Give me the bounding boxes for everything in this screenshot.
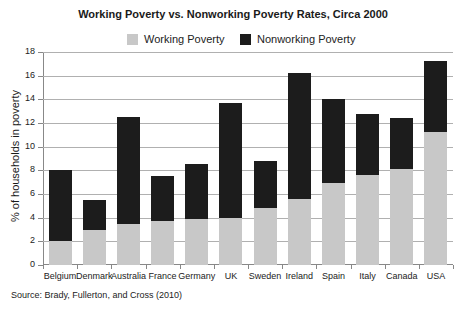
y-tick-label: 14 [15,93,35,103]
y-tick [38,241,43,242]
bar-usa [424,61,447,265]
x-tick [214,265,215,269]
y-tick [38,123,43,124]
y-tick-label: 12 [15,117,35,127]
y-tick-label: 16 [15,70,35,80]
bar-segment-nonworking [117,117,140,224]
bar-segment-working [424,132,447,265]
bar-segment-working [356,175,379,265]
bar-canada [390,118,413,265]
bar-segment-working [49,241,72,265]
x-tick [282,265,283,269]
legend-label-nonworking: Nonworking Poverty [257,33,355,45]
x-tick-label: USA [416,271,456,281]
bar-segment-nonworking [219,103,242,218]
y-tick-label: 4 [15,212,35,222]
bar-segment-working [390,169,413,265]
x-tick [248,265,249,269]
bar-segment-nonworking [288,73,311,198]
gridline [43,76,453,77]
y-tick [38,147,43,148]
bar-denmark [83,200,106,265]
legend-swatch-nonworking [240,34,251,45]
y-tick-label: 18 [15,46,35,56]
x-tick [453,265,454,269]
x-tick [419,265,420,269]
y-tick [38,194,43,195]
y-tick [38,99,43,100]
bar-sweden [254,161,277,265]
bar-segment-working [254,208,277,265]
bar-segment-working [151,221,174,265]
bar-segment-nonworking [322,99,345,183]
bar-segment-working [185,219,208,265]
bar-segment-working [288,199,311,265]
y-axis-label: % of households in poverty [9,86,21,226]
bar-segment-nonworking [390,118,413,169]
bar-segment-nonworking [83,200,106,230]
plot-area: 024681012141618 [43,52,453,265]
bar-segment-working [83,230,106,266]
legend-item-nonworking: Nonworking Poverty [240,32,355,46]
bar-ireland [288,73,311,265]
x-tick [146,265,147,269]
y-tick [38,52,43,53]
bar-france [151,176,174,265]
bar-segment-nonworking [151,176,174,221]
y-tick-label: 0 [15,259,35,269]
bar-segment-nonworking [424,61,447,132]
legend-swatch-working [127,34,138,45]
chart-title: Working Poverty vs. Nonworking Poverty R… [0,8,466,20]
x-tick [180,265,181,269]
legend: Working Poverty Nonworking Poverty [0,32,466,46]
bar-segment-nonworking [185,164,208,218]
bar-segment-working [219,218,242,265]
bar-australia [117,117,140,265]
y-tick-label: 6 [15,188,35,198]
y-tick [38,76,43,77]
y-tick-label: 2 [15,235,35,245]
x-tick [77,265,78,269]
bar-spain [322,99,345,265]
x-tick [385,265,386,269]
bar-segment-working [322,183,345,265]
gridline [43,52,453,53]
y-tick [38,170,43,171]
x-tick [43,265,44,269]
x-tick [111,265,112,269]
y-axis [43,52,44,265]
x-tick [316,265,317,269]
gridline [43,99,453,100]
y-tick-label: 10 [15,141,35,151]
bar-segment-working [117,224,140,265]
source-note: Source: Brady, Fullerton, and Cross (201… [11,290,182,300]
bar-uk [219,103,242,265]
y-tick [38,218,43,219]
legend-label-working: Working Poverty [144,33,225,45]
bar-segment-nonworking [49,170,72,241]
bar-belgium [49,170,72,265]
bar-italy [356,114,379,265]
x-tick [351,265,352,269]
legend-item-working: Working Poverty [127,32,225,46]
bar-germany [185,164,208,265]
y-tick-label: 8 [15,164,35,174]
bar-segment-nonworking [356,114,379,176]
bar-segment-nonworking [254,161,277,208]
